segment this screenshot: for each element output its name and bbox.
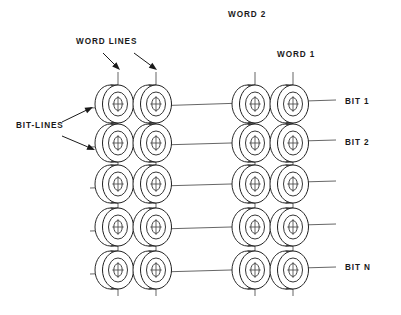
label-bit-lines: BIT-LINES: [16, 121, 64, 130]
label-bit-2: BIT 2: [345, 138, 370, 147]
label-word-2: WORD 2: [228, 10, 266, 19]
core-bead: [270, 165, 309, 203]
label-word-lines: WORD LINES: [76, 37, 137, 46]
core-bead: [232, 208, 271, 246]
core-bead: [270, 251, 309, 289]
core-bead: [270, 85, 309, 123]
core-bead: [133, 85, 172, 123]
core-bead: [133, 165, 172, 203]
core-bead: [133, 208, 172, 246]
label-word-1: WORD 1: [277, 50, 315, 59]
core-bead: [232, 124, 271, 162]
core-bead: [95, 165, 134, 203]
figure-background: [0, 0, 401, 315]
label-bit-1: BIT 1: [345, 97, 370, 106]
core-bead: [270, 208, 309, 246]
core-memory-figure: WORD LINES BIT-LINES WORD 2 WORD 1 BIT 1…: [0, 0, 401, 315]
core-bead: [133, 251, 172, 289]
core-bead: [232, 251, 271, 289]
core-bead: [270, 124, 309, 162]
diagram-canvas: WORD LINES BIT-LINES WORD 2 WORD 1 BIT 1…: [0, 0, 401, 315]
core-bead: [133, 124, 172, 162]
core-bead: [95, 251, 134, 289]
label-bit-n: BIT N: [345, 263, 371, 272]
core-bead: [95, 124, 134, 162]
core-bead: [95, 208, 134, 246]
core-bead: [232, 165, 271, 203]
core-bead: [95, 85, 134, 123]
core-bead: [232, 85, 271, 123]
